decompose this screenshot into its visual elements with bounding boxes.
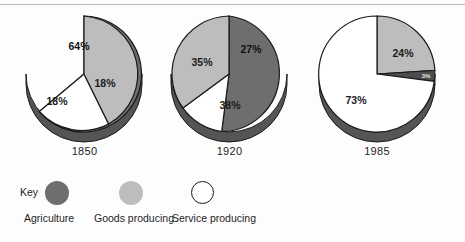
pie-1850-graphic: 64% 18% 18%	[22, 6, 147, 146]
slice-label-agriculture-1985: 3%	[422, 73, 431, 79]
top-divider	[0, 4, 465, 5]
legend-caption-service-producing: Service producing	[172, 212, 256, 224]
legend-caption-agriculture: Agriculture	[24, 212, 74, 224]
pie-chart-1985: 24% 3% 73% 1985	[312, 6, 442, 166]
pie-chart-1920: 27% 38% 35% 1920	[167, 6, 292, 166]
legend-caption-goods-producing: Goods producing	[94, 212, 174, 224]
white-circle-icon	[191, 181, 214, 204]
slice-label-agriculture-1920: 27%	[240, 43, 262, 55]
slice-label-service-1850: 18%	[46, 95, 68, 107]
year-label-1985: 1985	[312, 145, 442, 157]
slice-label-service-1985: 73%	[345, 94, 367, 106]
dark-gray-circle-icon	[45, 181, 69, 205]
slice-goods-1985	[377, 16, 435, 74]
slice-label-goods-1985: 24%	[392, 47, 414, 59]
slice-label-goods-1920: 35%	[191, 56, 213, 68]
year-label-1850: 1850	[22, 145, 147, 157]
pie-chart-group: 64% 18% 18% 1850 27% 38% 35% 1920	[0, 6, 465, 166]
pie-1985-graphic: 24% 3% 73%	[312, 6, 442, 146]
slice-label-agriculture-1850: 64%	[68, 40, 90, 52]
legend-key-label: Key	[20, 186, 38, 198]
slice-label-goods-1850: 18%	[94, 77, 116, 89]
light-gray-circle-icon	[119, 181, 143, 205]
year-label-1920: 1920	[167, 145, 292, 157]
slice-label-service-1920: 38%	[219, 99, 241, 111]
chart-legend: Key Agriculture Goods producing Service …	[0, 172, 465, 232]
pie-1920-graphic: 27% 38% 35%	[167, 6, 292, 146]
pie-chart-1850: 64% 18% 18% 1850	[22, 6, 147, 166]
